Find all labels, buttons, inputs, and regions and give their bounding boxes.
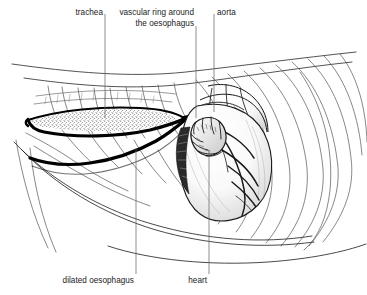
label-aorta: aorta: [217, 8, 297, 19]
label-vascular-ring-line2: the oesophagus: [135, 19, 194, 28]
thoracic-wall: [12, 52, 356, 87]
dilated-oesophagus-body: [26, 106, 186, 136]
label-dilated-oesophagus: dilated oesophagus: [30, 276, 134, 287]
anatomy-figure: trachea vascular ring aroundthe oesophag…: [0, 0, 367, 295]
label-vascular-ring: vascular ring aroundthe oesophagus: [84, 8, 194, 29]
label-heart: heart: [160, 276, 207, 287]
label-vascular-ring-line1: vascular ring around: [119, 8, 194, 17]
diaphragm: [300, 72, 331, 250]
anatomy-illustration: [0, 0, 367, 295]
